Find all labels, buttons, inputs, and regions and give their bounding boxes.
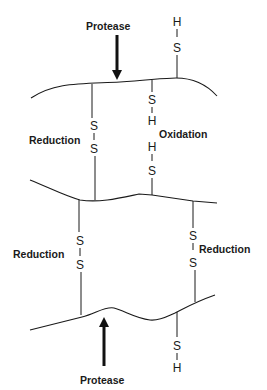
- sulfur-atom: S: [148, 164, 156, 178]
- sulfur-atom: S: [76, 258, 84, 272]
- sulfur-atom: S: [148, 93, 156, 107]
- sulfur-atom: S: [173, 41, 181, 55]
- disulfide-diagram: Protease H S S H S S Reduction Oxidation…: [0, 0, 267, 390]
- hydrogen-atom: H: [173, 15, 182, 29]
- sulfur-atom: S: [173, 339, 181, 353]
- reduction-label-upper-left: Reduction: [29, 134, 80, 146]
- protease-label-bottom: Protease: [80, 374, 125, 386]
- protein-chain-3: [30, 295, 215, 330]
- protease-label-top: Protease: [86, 20, 131, 32]
- sulfur-atom: S: [189, 229, 197, 243]
- sulfur-atom: S: [90, 119, 98, 133]
- reduction-label-lower-right: Reduction: [199, 243, 250, 255]
- sulfur-atom: S: [189, 256, 197, 270]
- protein-chain-1: [31, 78, 217, 98]
- sulfur-atom: S: [76, 234, 84, 248]
- reduction-label-lower-left: Reduction: [13, 248, 64, 260]
- hydrogen-atom: H: [173, 361, 182, 375]
- protease-arrow-top-head: [112, 70, 122, 80]
- hydrogen-atom: H: [148, 114, 157, 128]
- oxidation-label: Oxidation: [159, 128, 207, 140]
- protein-chain-2: [30, 180, 217, 203]
- sulfur-atom: S: [90, 142, 98, 156]
- protease-arrow-bottom-head: [99, 317, 109, 327]
- hydrogen-atom: H: [148, 140, 157, 154]
